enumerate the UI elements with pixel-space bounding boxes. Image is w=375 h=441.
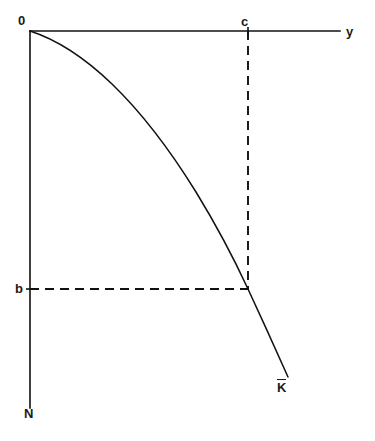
n-axis-label: N <box>24 407 33 420</box>
economics-figure: 0 c y b K N <box>0 0 375 441</box>
c-label: c <box>241 15 248 28</box>
b-label: b <box>15 282 23 295</box>
origin-label: 0 <box>18 14 25 27</box>
y-axis-label: y <box>346 25 353 38</box>
figure-canvas <box>0 0 375 441</box>
k-bar-label: K <box>277 379 286 394</box>
k-bar-curve <box>30 31 288 377</box>
